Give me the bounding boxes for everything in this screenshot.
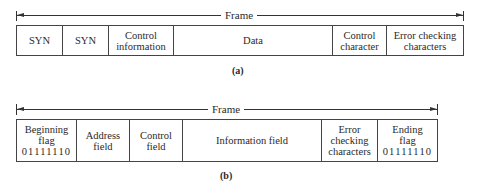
arrowhead-left-icon — [17, 107, 24, 111]
frame-fields-row: Beginning flag 01111110 Address field Co… — [16, 119, 438, 162]
field-information: Information field — [183, 120, 322, 161]
field-error-checking-characters: Error checking characters — [322, 120, 378, 161]
frame-right-tick — [437, 104, 438, 115]
field-address: Address field — [77, 120, 130, 161]
field-beginning-flag: Beginning flag 01111110 — [17, 120, 77, 161]
field-control: Control field — [130, 120, 183, 161]
frame-diagram-b: Frame Beginning flag 01111110 Address fi… — [0, 0, 479, 194]
caption-b: (b) — [220, 170, 232, 181]
arrowhead-right-icon — [430, 107, 437, 111]
field-ending-flag: Ending flag 01111110 — [378, 120, 437, 161]
frame-label: Frame — [208, 103, 244, 115]
